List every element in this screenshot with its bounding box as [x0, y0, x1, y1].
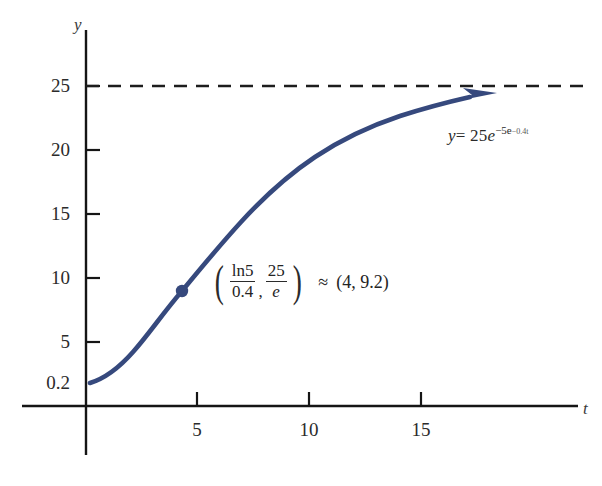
y-axis-ticks	[86, 86, 100, 342]
chart-canvas	[0, 0, 602, 486]
gompertz-curve	[90, 97, 470, 383]
equation-base: e	[487, 126, 495, 145]
x-axis-ticks	[197, 392, 421, 406]
equation-equals: =	[456, 126, 466, 145]
y-tick-label-5: 5	[24, 332, 70, 351]
close-paren: )	[292, 264, 301, 300]
open-paren: (	[215, 264, 224, 300]
y-label-initial-value: 0.2	[24, 373, 70, 392]
euler-e: e	[272, 282, 280, 301]
equation-lhs: y	[448, 126, 456, 145]
equation-exponent-level1: −5e	[495, 124, 512, 136]
x-tick-label-5: 5	[177, 420, 217, 439]
equation-coefficient: 25	[470, 126, 487, 145]
approx-value: (4, 9.2)	[328, 273, 389, 291]
y-tick-label-15: 15	[24, 204, 70, 223]
x-tick-label-10: 10	[289, 420, 329, 439]
fraction-x-coordinate: ln5 0.4	[227, 262, 259, 302]
y-tick-label-25: 25	[24, 76, 70, 95]
approx-symbol: ≈	[304, 273, 328, 291]
y-axis-label: y	[74, 16, 82, 33]
y-tick-label-20: 20	[24, 140, 70, 159]
equation-exponent-level2: −0.4t	[512, 127, 529, 136]
fraction-x-numerator: ln5	[230, 262, 256, 281]
x-axis-label: t	[583, 400, 588, 417]
inflection-point-annotation: ( ln5 0.4 , 25 e ) ≈ (4, 9.2)	[212, 262, 389, 302]
fraction-y-coordinate: 25 e	[263, 262, 290, 302]
fraction-x-denominator: 0.4	[230, 281, 256, 301]
inflection-point-marker	[176, 285, 188, 297]
chart-figure: y t 25 20 15 10 5 0.2 5 10 15 y= 25e−5e−…	[0, 0, 602, 486]
y-tick-label-10: 10	[24, 268, 70, 287]
fraction-y-denominator: e	[266, 281, 287, 301]
fraction-y-numerator: 25	[266, 262, 287, 281]
curve-equation-label: y= 25e−5e−0.4t	[448, 125, 528, 144]
curve-arrowhead-icon	[462, 88, 497, 100]
x-tick-label-15: 15	[401, 420, 441, 439]
